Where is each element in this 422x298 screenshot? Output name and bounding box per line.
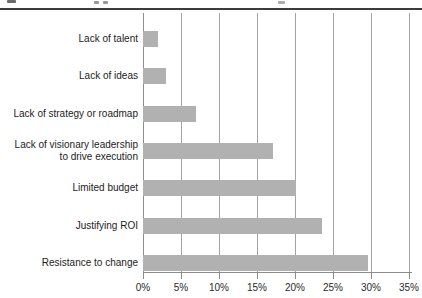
x-axis-tick (181, 272, 182, 279)
cropped-caption-fragment (278, 1, 285, 4)
category-label: Resistance to change (0, 257, 138, 269)
cropped-caption-fragment (7, 0, 16, 3)
x-axis-tick-label: 25% (323, 282, 343, 293)
gridline (409, 13, 410, 272)
x-axis-tick (371, 272, 372, 279)
x-axis-tick (143, 272, 144, 279)
category-label: Limited budget (0, 182, 138, 194)
bar-chart-figure: Lack of talentLack of ideasLack of strat… (0, 0, 422, 298)
bar (143, 255, 368, 271)
cropped-caption-fragment (94, 1, 99, 4)
x-axis-tick-label: 0% (136, 282, 150, 293)
figure-top-rule (0, 8, 422, 10)
category-label: Justifying ROI (0, 220, 138, 232)
x-axis-tick-label: 10% (209, 282, 229, 293)
category-label: Lack of strategy or roadmap (0, 108, 138, 120)
gridline (333, 13, 334, 272)
bar (143, 106, 196, 122)
category-label: Lack of ideas (0, 70, 138, 82)
bar (143, 218, 322, 234)
category-label: Lack of visionary leadership to drive ex… (0, 139, 138, 163)
cropped-caption-fragment (103, 1, 108, 4)
x-axis-tick (333, 272, 334, 279)
x-axis-tick (409, 272, 410, 279)
x-axis-tick-label: 20% (285, 282, 305, 293)
bar (143, 143, 273, 159)
x-axis-tick (219, 272, 220, 279)
x-axis-tick-label: 5% (174, 282, 188, 293)
x-axis-tick (257, 272, 258, 279)
x-axis-tick-label: 35% (399, 282, 419, 293)
x-axis-tick (295, 272, 296, 279)
x-axis-tick-label: 15% (247, 282, 267, 293)
category-label: Lack of talent (0, 33, 138, 45)
x-axis-tick-label: 30% (361, 282, 381, 293)
bar (143, 68, 166, 84)
bar (143, 31, 158, 47)
bar (143, 180, 296, 196)
gridline (371, 13, 372, 272)
